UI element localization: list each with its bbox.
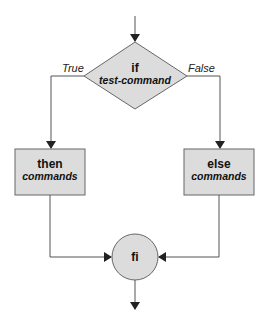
else-keyword: else [207, 157, 231, 171]
else-node: else commands [184, 149, 254, 195]
then-node: then commands [15, 149, 85, 195]
fi-keyword: fi [131, 250, 138, 264]
else-label: commands [191, 170, 247, 182]
true-edge-label: True [62, 62, 84, 74]
else-to-fi-line [159, 195, 219, 257]
then-label: commands [22, 170, 78, 182]
true-branch-line [51, 76, 84, 148]
then-keyword: then [37, 157, 62, 171]
then-to-fi-line [50, 195, 111, 257]
if-then-else-flowchart: if test-command True False then commands… [0, 0, 266, 325]
decision-node: if test-command [84, 42, 187, 109]
false-branch-line [187, 76, 220, 148]
false-edge-label: False [188, 62, 215, 74]
decision-label: test-command [99, 74, 171, 86]
fi-node: fi [112, 234, 158, 280]
decision-keyword: if [131, 61, 139, 75]
